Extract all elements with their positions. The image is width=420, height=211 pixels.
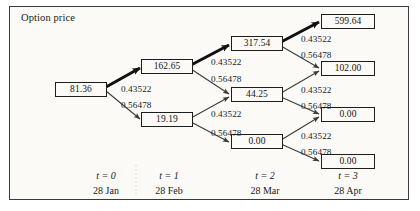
axis-date-t0: 28 Jan	[76, 185, 136, 196]
prob-t1up-up: 0.43522	[211, 57, 242, 67]
axis-label-t0-text: t = 0	[96, 170, 116, 181]
axis-label-t2-text: t = 2	[255, 170, 275, 181]
axis-label-t2: t = 2	[235, 170, 295, 181]
node-t3-1[interactable]: 102.00	[321, 61, 375, 76]
node-t3-0[interactable]: 599.64	[321, 14, 375, 29]
prob-t1down-up: 0.43522	[211, 109, 242, 119]
node-t0-0[interactable]: 81.36	[55, 82, 107, 97]
prob-t0-up: 0.43522	[121, 84, 152, 94]
figure-canvas: Option price 8	[0, 0, 420, 211]
prob-t1down-down: 0.56478	[211, 128, 242, 138]
node-t2-1-value: 44.25	[232, 88, 282, 101]
node-t1-1-value: 19.19	[142, 113, 192, 126]
axis-date-t2: 28 Mar	[235, 185, 295, 196]
prob-t2c-down: 0.56478	[301, 147, 332, 157]
axis-label-t3-text: t = 3	[338, 170, 358, 181]
node-t0-0-value: 81.36	[56, 83, 106, 96]
node-t1-0-value: 162.65	[142, 60, 192, 73]
axis-label-t0: t = 0	[76, 170, 136, 181]
node-t2-0-value: 317.54	[232, 37, 282, 50]
axis-date-t1: 28 Feb	[139, 185, 199, 196]
node-t3-1-value: 102.00	[322, 62, 374, 75]
axis-label-t1: t = 1	[139, 170, 199, 181]
axis-date-t3: 28 Apr	[318, 185, 378, 196]
node-t3-0-value: 599.64	[322, 15, 374, 28]
prob-t2b-down: 0.56478	[301, 101, 332, 111]
prob-t0-down: 0.56478	[121, 100, 152, 110]
prob-t2a-down: 0.56478	[301, 50, 332, 60]
prob-t1up-down: 0.56478	[211, 74, 242, 84]
axis-label-t1-text: t = 1	[159, 170, 179, 181]
axis-label-t3: t = 3	[318, 170, 378, 181]
node-t1-1[interactable]: 19.19	[141, 112, 193, 127]
prob-t2c-up: 0.43522	[301, 131, 332, 141]
node-t1-0[interactable]: 162.65	[141, 59, 193, 74]
prob-t2a-up: 0.43522	[301, 34, 332, 44]
prob-t2b-up: 0.43522	[301, 85, 332, 95]
node-t2-1[interactable]: 44.25	[231, 87, 283, 102]
node-t2-0[interactable]: 317.54	[231, 36, 283, 51]
